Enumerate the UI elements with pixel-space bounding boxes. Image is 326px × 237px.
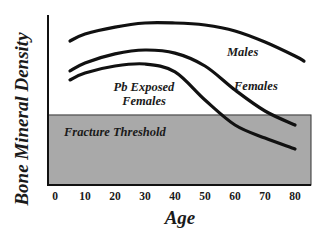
- x-axis-label: Age: [150, 207, 210, 229]
- x-tick-label: 80: [283, 190, 307, 202]
- x-tick-label: 60: [223, 190, 247, 202]
- fracture-threshold-label: Fracture Threshold: [64, 125, 166, 139]
- pb-label-line2: Females: [104, 94, 184, 108]
- females-curve-label: Females: [234, 79, 278, 93]
- pb-label-line1: Pb Exposed: [104, 80, 184, 94]
- x-tick-label: 40: [163, 190, 187, 202]
- x-tick-label: 0: [43, 190, 67, 202]
- y-axis-label-text: Bone Mineral Density: [11, 32, 33, 205]
- x-tick-label: 10: [73, 190, 97, 202]
- x-tick-label: 20: [103, 190, 127, 202]
- x-tick-label: 70: [253, 190, 277, 202]
- y-axis-label: Bone Mineral Density: [4, 0, 40, 237]
- bmd-age-chart: Bone Mineral Density Age 010203040506070…: [0, 0, 326, 237]
- x-tick-label: 30: [133, 190, 157, 202]
- males-curve-label: Males: [227, 45, 258, 59]
- x-tick-label: 50: [193, 190, 217, 202]
- pb-exposed-females-label: Pb Exposed Females: [104, 80, 184, 108]
